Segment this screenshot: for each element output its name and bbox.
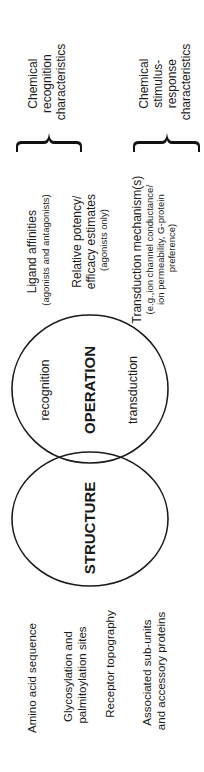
operation-label: OPERATION: [81, 346, 98, 434]
brace-labels: Chemical recognition characteristics Che…: [26, 44, 193, 121]
item-transduction-mechanisms: Transduction mechanism(s) (e.g.,ion chan…: [130, 173, 177, 324]
label-chemical-stimulus-response: Chemical stimulus- response characterist…: [137, 44, 193, 121]
structure-items: Amino acid sequence Glycosylation and pa…: [26, 610, 167, 733]
brace-recognition-icon: [16, 133, 82, 152]
recognition-label: recognition: [38, 359, 52, 420]
brace-stimulus-response-icon: [133, 133, 200, 152]
item-amino-acid-sequence: Amino acid sequence: [26, 623, 38, 733]
structure-label: STRUCTURE: [81, 482, 98, 575]
transduction-label: transduction: [126, 356, 140, 424]
item-ligand-affinities: Ligand affinities (agonists and antagoni…: [25, 194, 51, 305]
item-relative-potency: Relative potency/ efficacy estimates (ag…: [70, 191, 109, 290]
item-receptor-topography: Receptor topography: [104, 610, 116, 718]
item-glycosylation-sites: Glycosylation and palmitoylation sites: [62, 626, 88, 723]
label-chemical-recognition: Chemical recognition characteristics: [26, 44, 68, 121]
venn-circles: STRUCTURE recognition OPERATION transduc…: [12, 315, 168, 586]
braces: [16, 133, 200, 152]
item-associated-subunits: Associated sub-units and accessory prote…: [141, 612, 167, 731]
receptor-characterization-diagram: Amino acid sequence Glycosylation and pa…: [0, 0, 204, 772]
operation-items: Ligand affinities (agonists and antagoni…: [25, 173, 177, 324]
